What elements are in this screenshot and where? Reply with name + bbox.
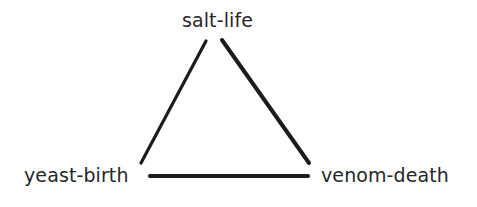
diagram-canvas: salt-life yeast-birth venom-death [0, 0, 477, 207]
edge-salt-life-to-venom-death [222, 40, 309, 163]
node-label-yeast-birth: yeast-birth [24, 166, 129, 185]
edge-salt-life-to-yeast-birth [141, 41, 206, 163]
node-label-venom-death: venom-death [321, 166, 449, 185]
node-label-salt-life: salt-life [182, 11, 253, 30]
